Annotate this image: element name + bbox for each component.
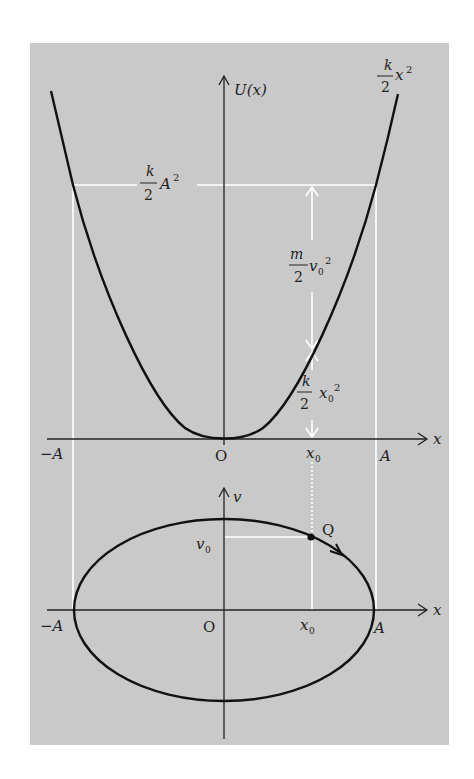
top-tick-origin: O — [215, 447, 227, 465]
v0-label: v — [196, 535, 205, 553]
potential-label-num: k — [302, 373, 310, 389]
bottom-tick-origin: O — [203, 618, 215, 636]
top-tick-A: A — [378, 447, 391, 465]
potential-label-tail: x — [319, 384, 328, 402]
point-q — [307, 533, 314, 540]
potential-label-sub: 0 — [328, 394, 334, 404]
harmonic-oscillator-figure: U(x) x k 2 x 2 k 2 A 2 m 2 v 0 2 k 2 x 0… — [0, 0, 474, 779]
kinetic-label-tail: v — [309, 257, 318, 275]
v-axis-label: v — [233, 488, 242, 506]
bottom-x-axis-label: x — [433, 601, 442, 619]
potential-label-den: 2 — [300, 396, 309, 412]
bottom-tick-x0-sub: 0 — [309, 626, 315, 636]
curve-label-den: 2 — [381, 79, 390, 95]
energy-label-tail: A — [158, 175, 171, 193]
energy-label-den: 2 — [144, 187, 153, 203]
kinetic-label-exp: 2 — [325, 255, 331, 266]
potential-label-exp: 2 — [334, 382, 340, 393]
curve-label-tail: x — [395, 66, 404, 84]
curve-label-exp: 2 — [406, 64, 412, 75]
top-tick-x0-sub: 0 — [315, 454, 321, 464]
bottom-tick-neg-A: −A — [40, 617, 64, 635]
energy-label-exp: 2 — [173, 172, 179, 183]
top-tick-neg-A: −A — [40, 445, 64, 463]
point-q-label: Q — [322, 521, 334, 539]
u-axis-label: U(x) — [234, 81, 267, 99]
top-x-axis-label: x — [433, 430, 442, 448]
curve-label-num: k — [384, 57, 392, 73]
bottom-tick-x0: x — [300, 616, 309, 634]
v0-sub: 0 — [205, 545, 211, 555]
bottom-tick-A: A — [372, 619, 385, 637]
energy-label-num: k — [146, 163, 154, 179]
kinetic-label-sub: 0 — [318, 267, 324, 277]
kinetic-label-num: m — [290, 246, 303, 262]
kinetic-label-den: 2 — [294, 269, 303, 285]
top-tick-x0: x — [306, 444, 315, 462]
